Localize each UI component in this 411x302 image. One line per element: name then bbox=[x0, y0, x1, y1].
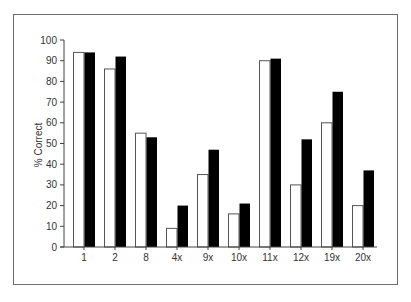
y-tick-label: 100 bbox=[40, 35, 57, 46]
bar-black-9x bbox=[209, 150, 220, 247]
bar-white-11x bbox=[260, 61, 271, 247]
y-tick-label: 50 bbox=[46, 138, 58, 149]
x-tick-label: 2 bbox=[112, 252, 118, 263]
y-tick-label: 10 bbox=[46, 221, 58, 232]
y-tick-label: 80 bbox=[46, 76, 58, 87]
bar-black-8 bbox=[147, 137, 158, 247]
bar-white-9x bbox=[198, 175, 209, 247]
y-axis-title: % Correct bbox=[33, 123, 44, 168]
x-tick-label: 19x bbox=[324, 252, 340, 263]
bar-white-10x bbox=[229, 214, 240, 247]
bar-white-19x bbox=[322, 123, 333, 247]
y-tick-label: 30 bbox=[46, 179, 58, 190]
bar-white-12x bbox=[291, 185, 302, 247]
bar-black-2 bbox=[116, 57, 127, 247]
bar-black-11x bbox=[271, 59, 282, 247]
x-tick-label: 10x bbox=[231, 252, 247, 263]
bar-white-4x bbox=[167, 228, 178, 247]
y-tick-label: 40 bbox=[46, 159, 58, 170]
y-tick-label: 0 bbox=[51, 242, 57, 253]
bar-white-1 bbox=[74, 52, 85, 247]
bar-black-12x bbox=[302, 139, 313, 247]
bar-black-1 bbox=[85, 52, 96, 247]
x-tick-label: 12x bbox=[293, 252, 309, 263]
y-tick-label: 60 bbox=[46, 117, 58, 128]
bars-layer bbox=[74, 52, 375, 247]
bar-white-8 bbox=[136, 133, 147, 247]
x-tick-label: 11x bbox=[262, 252, 277, 263]
bar-black-20x bbox=[364, 170, 375, 247]
bar-black-19x bbox=[333, 92, 344, 247]
x-tick-label: 20x bbox=[355, 252, 371, 263]
bar-white-20x bbox=[353, 206, 364, 247]
x-tick-label: 8 bbox=[143, 252, 149, 263]
x-tick-label: 1 bbox=[81, 252, 87, 263]
bar-black-4x bbox=[178, 206, 189, 247]
x-tick-label: 4x bbox=[172, 252, 183, 263]
x-tick-label: 9x bbox=[203, 252, 214, 263]
bar-white-2 bbox=[105, 69, 116, 247]
y-tick-label: 70 bbox=[46, 97, 58, 108]
bar-black-10x bbox=[240, 204, 251, 247]
bar-chart: 1284x9x10x11x12x19x20x010203040506070809… bbox=[0, 0, 411, 302]
y-tick-label: 90 bbox=[46, 55, 58, 66]
y-tick-label: 20 bbox=[46, 200, 58, 211]
